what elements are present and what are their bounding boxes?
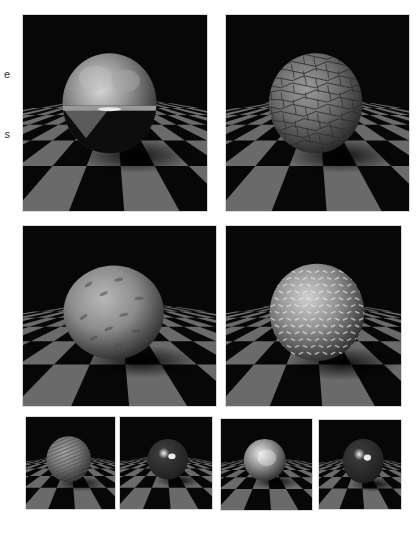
text-fragment: s (0, 128, 10, 140)
sphere-glossy-dark (148, 439, 188, 479)
render-image (226, 226, 401, 406)
sphere-glossy-dark-2 (343, 439, 384, 484)
render-panel-dented-matte (23, 226, 216, 406)
render-image (26, 417, 115, 509)
render-image (319, 420, 401, 509)
render-panel-glossy-dark-2 (319, 420, 401, 509)
render-panel-stone-brick-bump (226, 15, 409, 211)
render-panel-reflective-chrome (23, 15, 207, 211)
render-image (226, 15, 409, 211)
render-panel-diamond-plate-bump (226, 226, 401, 406)
render-image (120, 417, 212, 509)
render-image (23, 226, 216, 406)
render-panel-striped-bump (26, 417, 115, 509)
text-fragment: e (0, 68, 10, 80)
render-image (221, 419, 312, 510)
render-image (23, 15, 207, 211)
render-panel-bright-matte (221, 419, 312, 510)
sphere-dented-matte (64, 266, 164, 360)
render-panel-glossy-dark (120, 417, 212, 509)
